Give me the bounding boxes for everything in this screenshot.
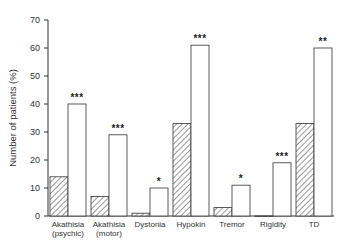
- category-label: (motor): [96, 229, 122, 238]
- category-label: Hypokin: [177, 220, 206, 229]
- y-tick-label: 20: [30, 155, 40, 165]
- y-tick-label: 40: [30, 99, 40, 109]
- category-label: Akathisia: [52, 220, 85, 229]
- category-label: Rigidity: [260, 220, 286, 229]
- category-label: (psychic): [52, 229, 84, 238]
- bar-open: [150, 188, 168, 216]
- bar-hatched: [173, 124, 191, 216]
- significance-marker: ***: [70, 92, 83, 103]
- y-tick-label: 10: [30, 183, 40, 193]
- bar-open: [314, 48, 332, 216]
- category-label: Dystonia: [134, 220, 166, 229]
- y-tick-label: 0: [35, 211, 40, 221]
- y-tick-label: 30: [30, 127, 40, 137]
- bar-open: [68, 104, 86, 216]
- y-tick-label: 50: [30, 71, 40, 81]
- significance-marker: *: [157, 176, 161, 187]
- y-tick-label: 70: [30, 15, 40, 25]
- category-label: Akathisia: [93, 220, 126, 229]
- bar-hatched: [91, 196, 109, 216]
- bar-open: [232, 185, 250, 216]
- y-axis-label: Number of patients (%): [7, 69, 18, 167]
- y-tick-label: 60: [30, 43, 40, 53]
- x-axis-labels: Akathisia(psychic)Akathisia(motor)Dyston…: [52, 220, 320, 238]
- significance-marker: ***: [193, 33, 206, 44]
- bar-hatched: [296, 124, 314, 216]
- category-label: Tremor: [219, 220, 245, 229]
- bar-hatched: [50, 177, 68, 216]
- bars: ****************: [50, 33, 332, 216]
- bar-hatched: [255, 216, 273, 217]
- bar-hatched: [132, 213, 150, 216]
- category-label: TD: [309, 220, 320, 229]
- bar-hatched: [214, 208, 232, 216]
- significance-marker: *: [239, 173, 243, 184]
- significance-marker: ***: [275, 151, 288, 162]
- significance-marker: **: [319, 36, 328, 47]
- bar-open: [191, 45, 209, 216]
- significance-marker: ***: [111, 123, 124, 134]
- bar-open: [273, 163, 291, 216]
- bar-open: [109, 135, 127, 216]
- bar-chart: 010203040506070 **************** Akathis…: [0, 0, 344, 248]
